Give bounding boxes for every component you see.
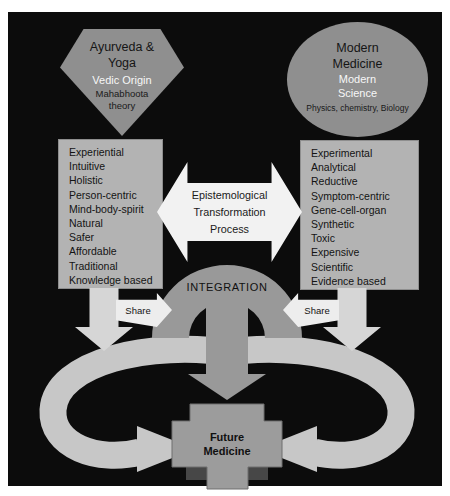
attribute-item: Evidence based [311, 274, 418, 288]
attribute-item: Affordable [69, 244, 162, 258]
attribute-item: Knowledge based [69, 273, 162, 287]
modern-origin: Modern Science [330, 73, 386, 101]
modern-attributes-box: ExperimentalAnalyticalReductiveSymptom-c… [300, 140, 419, 290]
attribute-item: Experimental [311, 146, 418, 160]
ayurveda-attributes-box: ExperientialIntuitiveHolisticPerson-cent… [58, 139, 163, 289]
modern-medicine-circle: Modern Medicine Modern Science Physics, … [287, 22, 428, 137]
attribute-item: Symptom-centric [311, 189, 418, 203]
attribute-item: Natural [69, 216, 162, 230]
attribute-item: Scientific [311, 260, 418, 274]
share-left-label: Share [125, 305, 150, 316]
attribute-item: Safer [69, 230, 162, 244]
attribute-item: Analytical [311, 160, 418, 174]
transformation-label: Epistemological Transformation Process [185, 187, 275, 238]
attribute-item: Person-centric [69, 188, 162, 202]
attribute-item: Gene-cell-organ [311, 203, 418, 217]
integration-label: INTEGRATION [157, 281, 297, 293]
attribute-item: Expensive [311, 245, 418, 259]
attribute-item: Toxic [311, 231, 418, 245]
modern-title: Modern Medicine [326, 41, 390, 72]
ayurveda-origin: Vedic Origin [92, 74, 151, 86]
attribute-item: Holistic [69, 173, 162, 187]
attribute-item: Mind-body-spirit [69, 202, 162, 216]
attribute-item: Reductive [311, 174, 418, 188]
diagram-page: Ayurveda & Yoga Vedic Origin Mahabhoota … [0, 0, 450, 496]
attribute-item: Experiential [69, 145, 162, 159]
attribute-item: Traditional [69, 259, 162, 273]
ayurveda-title: Ayurveda & Yoga [80, 39, 164, 72]
attribute-item: Intuitive [69, 159, 162, 173]
attribute-item: Synthetic [311, 217, 418, 231]
future-medicine-label: Future Medicine [197, 430, 257, 459]
modern-theory: Physics, chemistry, Biology [306, 103, 410, 114]
share-right-label: Share [304, 305, 329, 316]
